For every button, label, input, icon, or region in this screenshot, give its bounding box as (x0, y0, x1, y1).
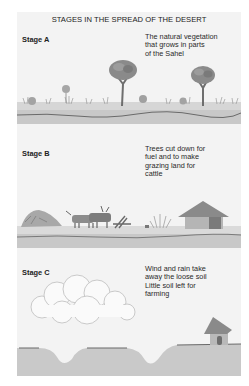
acacia-tree-icon (109, 60, 137, 106)
dust-cloud-icon (31, 275, 135, 324)
dry-shrub-icon (150, 214, 171, 228)
stage-c-description: Wind and rain take away the loose soil L… (145, 265, 240, 299)
stage-a-illustration (17, 60, 241, 124)
stage-c-label: Stage C (22, 268, 50, 277)
bush-icon (62, 85, 70, 93)
stage-a-soil (17, 108, 241, 124)
felled-tree-icon (21, 210, 62, 227)
desc-line: of the Sahel (145, 50, 240, 58)
stage-b-label: Stage B (22, 149, 50, 158)
diagram-title: STAGES IN THE SPREAD OF THE DESERT (17, 15, 241, 24)
bush-icon (180, 98, 187, 105)
diagram-panel: STAGES IN THE SPREAD OF THE DESERT Stage… (17, 12, 241, 376)
eroded-soil (17, 344, 241, 376)
stage-b-description: Trees cut down for fuel and to make graz… (145, 145, 240, 179)
bush-icon (28, 97, 36, 105)
round-hut-icon (178, 201, 229, 229)
small-hut-icon (204, 317, 232, 345)
illustrations (17, 12, 241, 376)
stage-a-label: Stage A (22, 35, 49, 44)
stage-a-description: The natural vegetation that grows in par… (145, 33, 240, 58)
desc-line: cattle (145, 170, 240, 178)
cattle-icon (66, 206, 111, 228)
acacia-tree-icon (191, 66, 215, 106)
desc-line: farming (145, 290, 240, 298)
bush-icon (139, 95, 147, 103)
stage-b-illustration (17, 201, 241, 248)
